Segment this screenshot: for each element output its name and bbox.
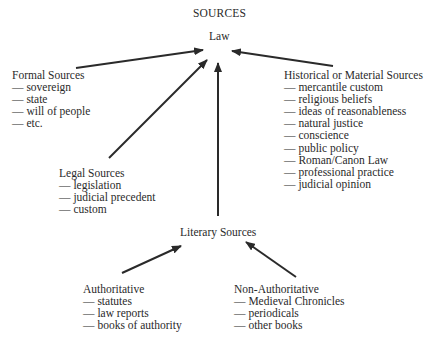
arrow-nonauthoritative-to-literary [246, 242, 296, 277]
node-heading: Non-Authoritative [234, 283, 345, 295]
arrow-authoritative-to-literary [122, 246, 181, 273]
node-literary-sources: Literary Sources [180, 226, 256, 238]
list-item: — Roman/Canon Law [284, 154, 423, 166]
list-item: — law reports [83, 307, 182, 319]
list-item: — judicial precedent [59, 191, 155, 203]
node-historical-sources: Historical or Material Sources — mercant… [284, 69, 423, 190]
list-item: — sovereign [12, 81, 90, 93]
node-authoritative: Authoritative — statutes — law reports —… [83, 283, 182, 331]
node-law: Law [209, 30, 229, 42]
node-heading: Legal Sources [59, 167, 155, 179]
list-item: — state [12, 93, 90, 105]
list-item: — judicial opinion [284, 178, 423, 190]
list-item: — public policy [284, 142, 423, 154]
list-item: — Medieval Chronicles [234, 295, 345, 307]
node-formal-sources: Formal Sources — sovereign — state — wil… [12, 69, 90, 129]
list-item: — books of authority [83, 319, 182, 331]
list-item: — professional practice [284, 166, 423, 178]
arrow-historical-to-law [232, 51, 333, 66]
diagram-title: SOURCES [193, 7, 246, 19]
list-item: — ideas of reasonableness [284, 105, 423, 117]
list-item: — etc. [12, 117, 90, 129]
node-heading: Historical or Material Sources [284, 69, 423, 81]
list-item: — other books [234, 319, 345, 331]
node-heading: Authoritative [83, 283, 182, 295]
arrow-legal-to-law [109, 60, 207, 158]
list-item: — mercantile custom [284, 81, 423, 93]
list-item: — statutes [83, 295, 182, 307]
list-item: — religious beliefs [284, 93, 423, 105]
list-item: — custom [59, 203, 155, 215]
list-item: — conscience [284, 129, 423, 141]
list-item: — legislation [59, 179, 155, 191]
list-item: — periodicals [234, 307, 345, 319]
node-non-authoritative: Non-Authoritative — Medieval Chronicles … [234, 283, 345, 331]
list-item: — natural justice [284, 117, 423, 129]
list-item: — will of people [12, 105, 90, 117]
node-legal-sources: Legal Sources — legislation — judicial p… [59, 167, 155, 215]
node-heading: Formal Sources [12, 69, 90, 81]
arrow-formal-to-law [76, 50, 203, 68]
